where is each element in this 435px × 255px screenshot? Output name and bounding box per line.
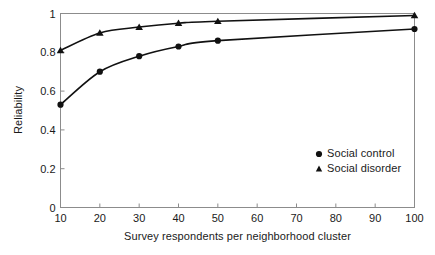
x-tick-label: 70 (280, 212, 314, 224)
y-tick-label: 0.4 (22, 124, 56, 136)
x-tick-label: 80 (319, 212, 353, 224)
data-point-circle (175, 43, 181, 49)
series-line-social-disorder (61, 15, 415, 50)
circle-marker-icon (313, 146, 325, 161)
x-tick-label: 90 (358, 212, 392, 224)
x-tick-label: 40 (162, 212, 196, 224)
legend-item-social-disorder: Social disorder (313, 161, 413, 176)
y-tick-label: 0.2 (22, 163, 56, 175)
reliability-line-chart: Reliability Survey respondents per neigh… (0, 0, 435, 255)
x-tick-label: 30 (122, 212, 156, 224)
y-tick-label: 0.6 (22, 85, 56, 97)
y-axis-title: Reliability (11, 13, 25, 207)
data-point-circle (97, 69, 103, 75)
chart-legend: Social control Social disorder (313, 146, 413, 176)
y-tick-label: 0.8 (22, 46, 56, 58)
legend-item-social-control: Social control (313, 146, 413, 161)
series-line-social-control (61, 29, 415, 105)
legend-label-social-control: Social control (325, 146, 394, 161)
x-tick-label: 20 (83, 212, 117, 224)
data-point-circle (215, 38, 221, 44)
y-tick-label: 1 (22, 8, 56, 20)
legend-label-social-disorder: Social disorder (325, 161, 401, 176)
data-point-circle (57, 102, 63, 108)
plot-frame (61, 14, 415, 208)
x-tick-label: 10 (44, 212, 78, 224)
x-tick-label: 50 (201, 212, 235, 224)
x-tick-label: 100 (398, 212, 432, 224)
data-point-circle (136, 53, 142, 59)
x-tick-label: 60 (240, 212, 274, 224)
x-axis-title: Survey respondents per neighborhood clus… (60, 229, 415, 243)
data-point-circle (411, 26, 417, 32)
triangle-marker-icon (313, 161, 325, 176)
